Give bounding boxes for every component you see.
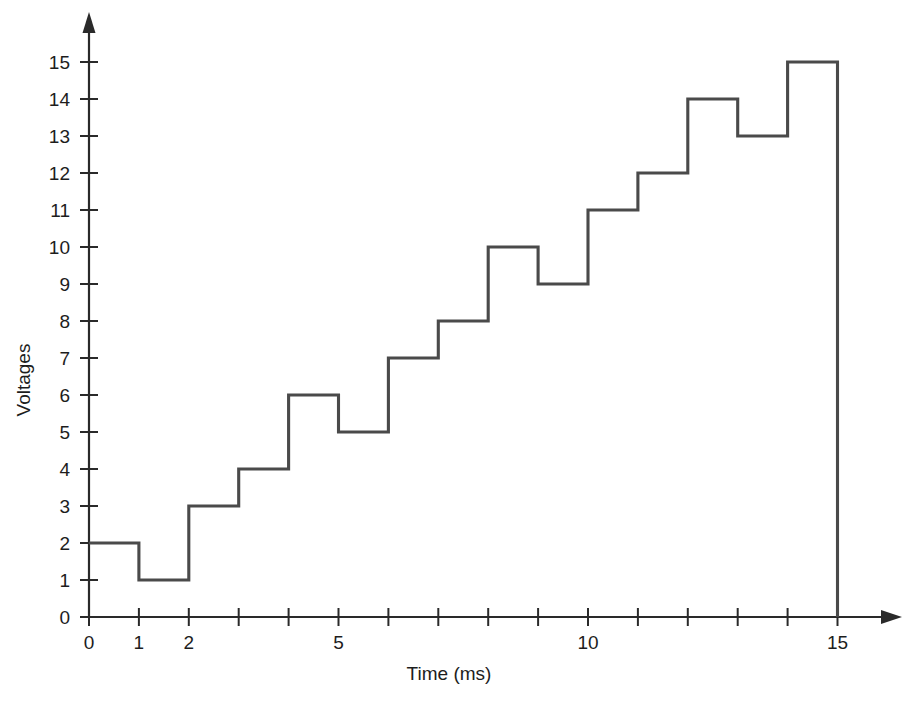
x-tick-label: 0 bbox=[84, 632, 95, 653]
tick-marks-layer bbox=[80, 62, 838, 626]
y-tick-label: 2 bbox=[59, 533, 70, 554]
y-tick-label: 4 bbox=[59, 459, 70, 480]
x-tick-label: 1 bbox=[134, 632, 145, 653]
y-tick-label: 9 bbox=[59, 274, 70, 295]
y-tick-label: 0 bbox=[59, 607, 70, 628]
arrow-right-icon bbox=[881, 610, 902, 624]
x-axis-title: Time (ms) bbox=[407, 663, 492, 684]
x-tick-label: 15 bbox=[827, 632, 848, 653]
y-axis-title: Voltages bbox=[13, 344, 34, 417]
x-tick-label: 2 bbox=[184, 632, 195, 653]
y-tick-label: 1 bbox=[59, 570, 70, 591]
x-tick-label: 5 bbox=[333, 632, 344, 653]
axis-layer bbox=[83, 12, 903, 624]
y-tick-label: 15 bbox=[49, 52, 70, 73]
y-tick-label: 14 bbox=[49, 89, 71, 110]
step-waveform-chart: 01251015 0123456789101112131415 Time (ms… bbox=[0, 0, 907, 708]
y-tick-label: 3 bbox=[59, 496, 70, 517]
x-tick-labels: 01251015 bbox=[84, 632, 848, 653]
step-waveform-path bbox=[89, 62, 838, 617]
y-tick-label: 5 bbox=[59, 422, 70, 443]
y-tick-label: 8 bbox=[59, 311, 70, 332]
y-tick-label: 11 bbox=[50, 200, 70, 221]
y-tick-label: 6 bbox=[59, 385, 70, 406]
y-tick-label: 7 bbox=[59, 348, 70, 369]
y-tick-label: 10 bbox=[49, 237, 70, 258]
y-tick-label: 13 bbox=[49, 126, 70, 147]
arrow-up-icon bbox=[83, 12, 96, 33]
chart-figure: 01251015 0123456789101112131415 Time (ms… bbox=[0, 0, 907, 708]
y-tick-label: 12 bbox=[49, 163, 70, 184]
y-tick-labels: 0123456789101112131415 bbox=[49, 52, 71, 628]
data-series-layer bbox=[89, 62, 838, 617]
x-tick-label: 10 bbox=[577, 632, 598, 653]
